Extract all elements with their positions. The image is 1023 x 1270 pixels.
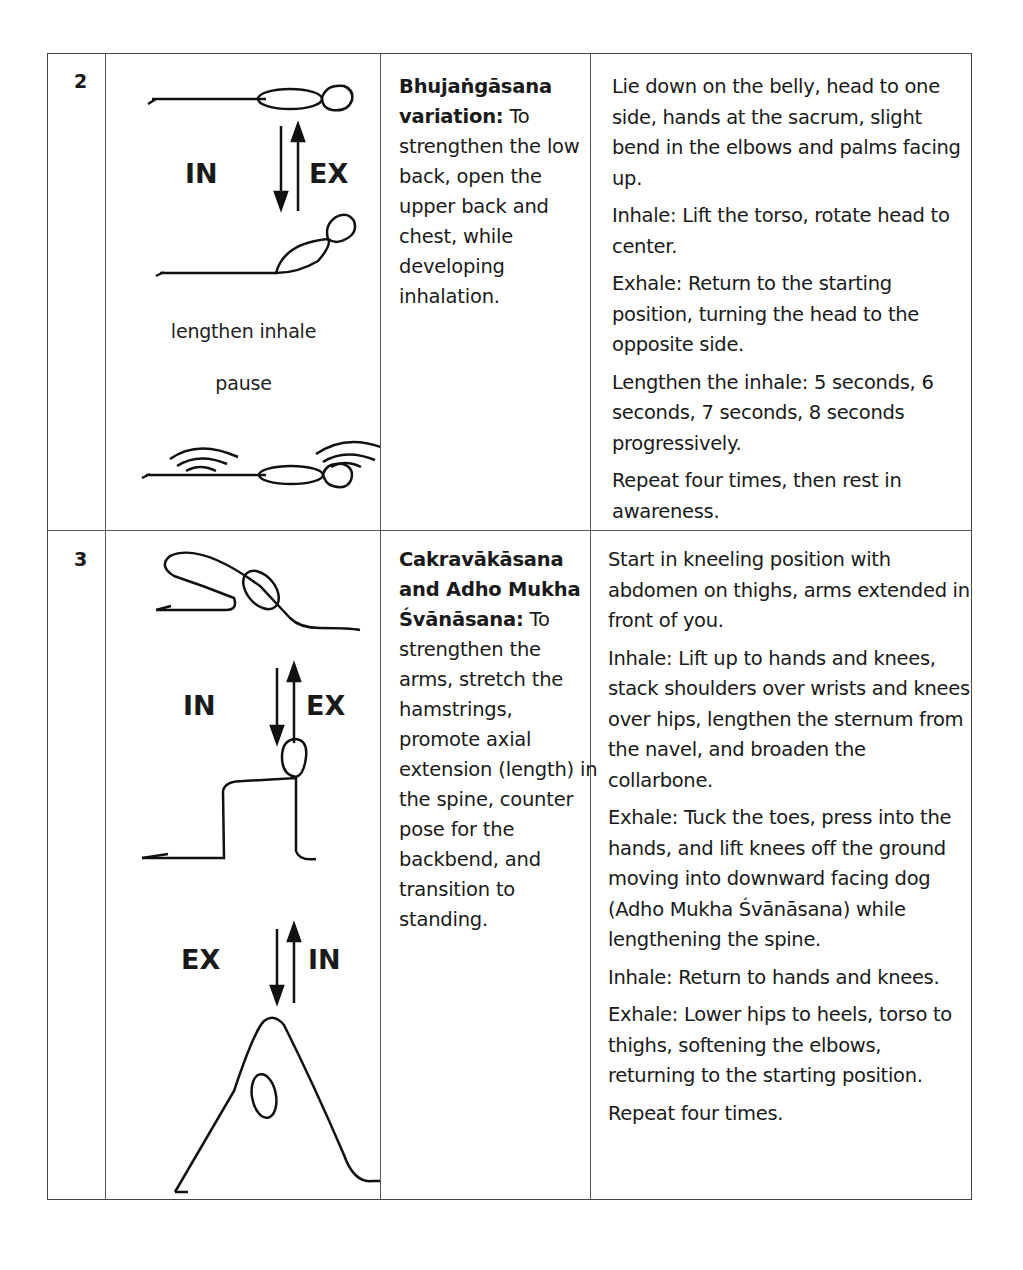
inhale-label: IN	[185, 158, 218, 189]
sequence-table: 2 IN EX	[47, 53, 972, 1200]
pose-illustration-prone	[106, 54, 380, 530]
pose-name: Cakravākāsana and Adho Mukha Śvānāsana:	[399, 548, 580, 631]
instruction-step: Start in kneeling position with abdomen …	[608, 545, 970, 637]
pose-instructions: Start in kneeling position with abdomen …	[608, 545, 970, 1136]
instruction-step: Repeat four times, then rest in awarenes…	[612, 466, 974, 527]
instruction-step: Inhale: Return to hands and knees.	[608, 963, 970, 994]
exhale-label: EX	[181, 944, 220, 975]
exhale-label: EX	[306, 690, 345, 721]
instruction-step: Inhale: Lift up to hands and knees, stac…	[608, 644, 970, 797]
inhale-label: IN	[183, 690, 216, 721]
instruction-step: Lengthen the inhale: 5 seconds, 6 second…	[612, 368, 974, 460]
instruction-step: Exhale: Lower hips to heels, torso to th…	[608, 1000, 970, 1092]
instruction-step: Repeat four times.	[608, 1099, 970, 1130]
pose-instructions: Lie down on the belly, head to one side,…	[612, 72, 974, 534]
pose-description: Bhujaṅgāsana variation: To strengthen th…	[399, 72, 599, 312]
instruction-step: Lie down on the belly, head to one side,…	[612, 72, 974, 194]
exhale-label: EX	[309, 158, 348, 189]
step-number: 2	[74, 70, 87, 92]
figure-caption: lengthen inhale	[106, 320, 381, 342]
pose-description: Cakravākāsana and Adho Mukha Śvānāsana: …	[399, 545, 599, 935]
inhale-label: IN	[308, 944, 341, 975]
pose-purpose: To strengthen the low back, open the upp…	[399, 105, 580, 308]
pose-illustration-cat-dog	[106, 531, 380, 1199]
column-divider	[380, 54, 381, 1199]
step-number: 3	[74, 548, 87, 570]
figure-caption: pause	[106, 372, 381, 394]
instruction-step: Exhale: Return to the starting position,…	[612, 269, 974, 361]
instruction-step: Inhale: Lift the torso, rotate head to c…	[612, 201, 974, 262]
pose-purpose: To strengthen the arms, stretch the hams…	[399, 608, 597, 931]
instruction-step: Exhale: Tuck the toes, press into the ha…	[608, 803, 970, 956]
